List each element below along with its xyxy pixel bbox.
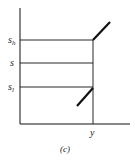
label-s-l: sl — [8, 81, 14, 94]
label-s-h: sh — [8, 34, 16, 47]
lower-segment — [77, 88, 93, 106]
upper-segment — [93, 22, 110, 40]
step-function-diagram: sh s sl y (c) — [0, 0, 135, 161]
x-axis-label: y — [89, 127, 95, 138]
figure-caption: (c) — [60, 144, 70, 154]
label-s: s — [10, 57, 14, 68]
